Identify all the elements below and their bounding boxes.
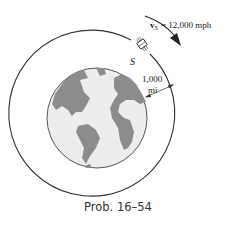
figure-caption: Prob. 16–54 <box>0 200 236 214</box>
altitude-value: 1,000 <box>142 74 163 84</box>
earth-globe <box>47 68 147 168</box>
velocity-label: vS= 12,000 mph <box>150 20 212 32</box>
arrowhead-icon <box>170 33 181 46</box>
altitude-unit: mi <box>148 85 158 95</box>
satellite-icon <box>134 35 150 53</box>
satellite-orbit-diagram: S vS= 12,000 mph 1,000 mi <box>0 0 236 229</box>
satellite-label: S <box>130 56 135 67</box>
